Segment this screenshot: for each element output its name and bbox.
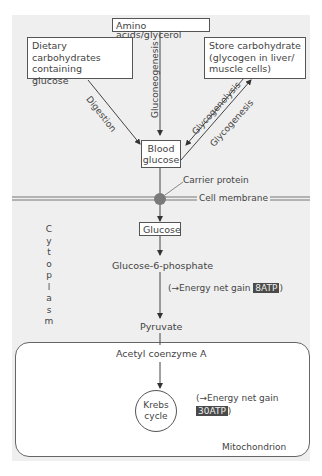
blood-glucose-box: Blood glucose [141,140,181,168]
cyto-letter: s [44,305,54,317]
atp-badge-30: 30ATP [196,406,228,416]
carrier-protein-label: Carrier protein [183,175,249,185]
cyto-letter: a [44,293,54,305]
cyto-letter: m [44,316,54,328]
glucose-box: Glucose [139,222,181,236]
energy-gain-2: (→Energy net gain 30ATP) [196,392,279,418]
energy1-text: (→Energy net gain [168,283,253,293]
store-line1: Store carbohydrate [209,40,301,52]
cytoplasm-label: C y t o p l a s m [44,224,54,328]
cyto-letter: t [44,247,54,259]
krebs-line1: Krebs [136,400,176,411]
cyto-letter: l [44,282,54,294]
g6p-label: Glucose-6-phosphate [112,260,213,271]
store-line2: (glycogen in liver/ [209,52,301,64]
dietary-line3: glucose [32,75,128,87]
energy1-suffix: ) [279,283,283,293]
energy-gain-1: (→Energy net gain 8ATP) [168,283,283,293]
krebs-line2: cycle [136,411,176,422]
amino-acids-box: Amino acids/glycerol [112,18,210,32]
dietary-line2: containing [32,63,128,75]
glucose-label: Glucose [143,224,181,235]
dietary-line1: Dietary carbohydrates [32,40,128,63]
store-line3: muscle cells) [209,63,301,75]
mitochondrion-label: Mitochondrion [222,442,286,452]
energy2-suffix: ) [228,406,232,416]
pyruvate-label: Pyruvate [140,321,182,332]
gluconeogenesis-label: Gluconeogenesis [150,41,160,118]
store-carbohydrate-box: Store carbohydrate (glycogen in liver/ m… [204,37,306,79]
dietary-carbohydrates-box: Dietary carbohydrates containing glucose [27,37,133,79]
cyto-letter: C [44,224,54,236]
energy2-text: (→Energy net gain [196,392,279,405]
cyto-letter: y [44,236,54,248]
atp-badge-8: 8ATP [253,283,279,293]
cyto-letter: o [44,259,54,271]
krebs-cycle-circle: Krebs cycle [135,390,177,432]
cell-membrane-label: Cell membrane [197,193,270,203]
cyto-letter: p [44,270,54,282]
blood-line1: Blood [142,143,180,154]
blood-line2: glucose [142,154,180,165]
acetyl-coa-label: Acetyl coenzyme A [116,348,207,359]
